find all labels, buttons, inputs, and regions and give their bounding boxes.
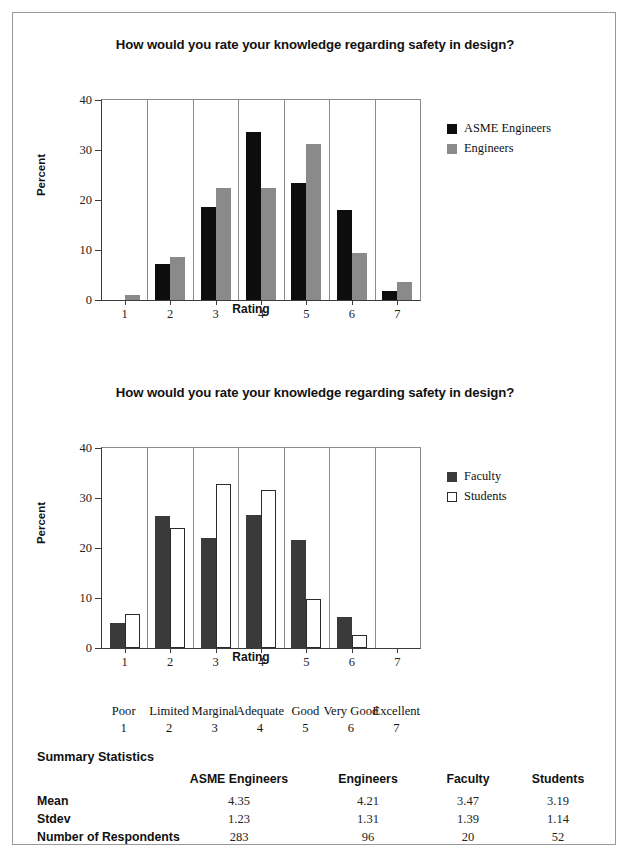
y-axis-tick-label: 40: [80, 93, 93, 108]
scale-item-6: Very Good6: [323, 703, 378, 737]
scale-item-3: Marginal3: [192, 703, 238, 737]
stat-cell: 1.31: [357, 812, 379, 827]
legend-1: ASME EngineersEngineers: [447, 121, 551, 161]
bar-asme-engineers-7: [382, 291, 397, 300]
y-axis-tick-label: 10: [80, 591, 93, 606]
legend-swatch-icon: [447, 472, 457, 482]
legend-label: Faculty: [464, 469, 501, 484]
gridline-vertical: [329, 100, 330, 300]
gridline-vertical: [193, 448, 194, 648]
chart-title-2: How would you rate your knowledge regard…: [13, 385, 617, 400]
scale-item-number: 4: [236, 720, 284, 737]
bar-asme-engineers-5: [291, 183, 306, 300]
bar-engineers-4: [261, 188, 276, 300]
summary-title: Summary Statistics: [37, 750, 154, 764]
gridline-vertical: [193, 100, 194, 300]
scale-item-label: Adequate: [236, 704, 284, 718]
y-axis-tick: [95, 300, 102, 301]
page-frame: How would you rate your knowledge regard…: [12, 12, 616, 845]
bar-students-4: [261, 490, 276, 649]
scale-item-number: 6: [323, 720, 378, 737]
chart-title-1: How would you rate your knowledge regard…: [13, 37, 617, 52]
y-axis-tick-label: 40: [80, 441, 93, 456]
stat-cell: 3.47: [457, 794, 479, 809]
legend-swatch-icon: [447, 492, 457, 502]
stat-column-header: Students: [532, 772, 585, 786]
chart-block-1: How would you rate your knowledge regard…: [13, 29, 617, 349]
scale-item-number: 7: [373, 720, 421, 737]
bar-faculty-2: [155, 516, 170, 648]
stat-cell: 1.23: [228, 812, 250, 827]
y-axis-tick: [95, 648, 102, 649]
y-axis-label-2: Percent: [35, 483, 47, 563]
y-axis-tick: [95, 200, 102, 201]
scale-item-label: Limited: [149, 704, 189, 718]
y-axis-tick: [95, 498, 102, 499]
y-axis-tick: [95, 100, 102, 101]
rating-scale-row: Poor1Limited2Marginal3Adequate4Good5Very…: [13, 703, 617, 745]
bar-faculty-5: [291, 540, 306, 648]
bar-faculty-1: [110, 623, 125, 648]
gridline-vertical: [238, 448, 239, 648]
chart-block-2: How would you rate your knowledge regard…: [13, 377, 617, 697]
y-axis-tick-label: 20: [80, 541, 93, 556]
bar-faculty-3: [201, 538, 216, 649]
y-axis-tick-label: 30: [80, 491, 93, 506]
stat-row-label: Stdev: [37, 812, 71, 826]
y-axis-tick: [95, 150, 102, 151]
bar-asme-engineers-2: [155, 264, 170, 300]
gridline-vertical: [147, 448, 148, 648]
gridline-vertical: [238, 100, 239, 300]
plot-area-2: 0102030401234567: [101, 447, 421, 649]
legend-swatch-icon: [447, 144, 457, 154]
y-axis-tick: [95, 250, 102, 251]
bar-students-3: [216, 484, 231, 648]
gridline-vertical: [284, 100, 285, 300]
bar-engineers-3: [216, 188, 231, 301]
bar-engineers-2: [170, 257, 185, 301]
gridline-vertical: [375, 448, 376, 648]
scale-item-label: Very Good: [323, 704, 378, 718]
scale-item-number: 1: [112, 720, 136, 737]
stat-row-label: Mean: [37, 794, 68, 808]
legend-item-faculty: Faculty: [447, 469, 507, 484]
scale-item-number: 2: [149, 720, 189, 737]
y-axis-tick: [95, 548, 102, 549]
x-axis-label-1: Rating: [91, 302, 411, 316]
gridline-vertical: [284, 448, 285, 648]
legend-swatch-icon: [447, 124, 457, 134]
bar-asme-engineers-3: [201, 207, 216, 301]
stat-cell: 4.21: [357, 794, 379, 809]
y-axis-tick: [95, 448, 102, 449]
plot-wrap-1: Percent 0102030401234567 Rating: [13, 69, 617, 329]
scale-item-5: Good5: [291, 703, 319, 737]
scale-item-label: Excellent: [373, 704, 421, 718]
stat-cell: 1.39: [457, 812, 479, 827]
y-axis-tick-label: 20: [80, 193, 93, 208]
bar-faculty-6: [337, 617, 352, 648]
bar-engineers-1: [125, 295, 140, 300]
scale-item-4: Adequate4: [236, 703, 284, 737]
legend-label: ASME Engineers: [464, 121, 551, 136]
bar-students-5: [306, 599, 321, 649]
y-axis-tick: [95, 598, 102, 599]
stat-column-header: Faculty: [446, 772, 489, 786]
gridline-vertical: [147, 100, 148, 300]
bar-students-1: [125, 614, 140, 649]
bar-faculty-4: [246, 515, 261, 648]
stat-cell: 20: [462, 830, 475, 845]
legend-2: FacultyStudents: [447, 469, 507, 509]
stat-column-header: Engineers: [338, 772, 397, 786]
plot-wrap-2: Percent 0102030401234567 Rating: [13, 417, 617, 677]
legend-label: Students: [464, 489, 507, 504]
scale-item-label: Good: [291, 704, 319, 718]
bar-engineers-6: [352, 253, 367, 300]
stat-cell: 1.14: [547, 812, 569, 827]
scale-item-number: 5: [291, 720, 319, 737]
scale-item-number: 3: [192, 720, 238, 737]
stat-cell: 4.35: [228, 794, 250, 809]
stat-cell: 96: [362, 830, 375, 845]
bar-asme-engineers-4: [246, 132, 261, 300]
gridline-vertical: [329, 448, 330, 648]
scale-item-label: Marginal: [192, 704, 238, 718]
